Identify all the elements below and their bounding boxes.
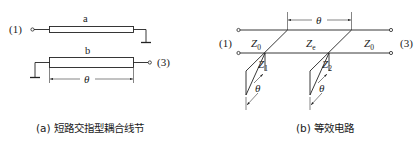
impedance-z2: Z2 <box>322 58 332 73</box>
line-b-label: b <box>85 45 90 56</box>
port-3-terminal-icon <box>148 61 151 64</box>
theta-length-label: θ <box>316 14 322 26</box>
port-1-bottom-terminal-icon <box>237 51 240 54</box>
diagram-canvas: (1) a b (3) θ (1) (3) θ <box>0 0 420 142</box>
port-1-label: (1) <box>9 23 22 36</box>
port-3-label: (3) <box>157 56 170 69</box>
port-3-label: (3) <box>400 37 413 50</box>
impedance-z1: Z1 <box>258 58 268 73</box>
figure-b-equivalent-circuit: (1) (3) θ Z0 Ze Z0 Z1 θ <box>219 12 413 110</box>
theta-length-label: θ <box>255 82 261 94</box>
theta-length-label: θ <box>319 82 325 94</box>
line-a-short-wire <box>134 30 147 43</box>
impedance-z0-left: Z0 <box>251 37 261 52</box>
coupled-line-a <box>50 27 134 33</box>
stub-1-dimension-arrow-bottom <box>247 93 258 105</box>
coupled-line-b <box>50 58 134 68</box>
port-1-label: (1) <box>219 37 232 50</box>
impedance-ze-middle: Ze <box>306 37 316 52</box>
theta-length-label: θ <box>84 73 90 85</box>
caption-a: (a) 短路交指型耦合线节 <box>36 122 144 134</box>
port-3-bottom-terminal-icon <box>389 51 392 54</box>
port-3-top-terminal-icon <box>389 28 392 31</box>
line-b-short-wire <box>35 63 50 78</box>
line-a-label: a <box>83 13 88 24</box>
port-1-terminal-icon <box>31 28 34 31</box>
figure-a-coupled-line-section: (1) a b (3) θ <box>9 13 170 85</box>
port-1-top-terminal-icon <box>237 28 240 31</box>
caption-b: (b) 等效电路 <box>296 122 355 134</box>
impedance-z0-right: Z0 <box>364 37 374 52</box>
shunt-stub-2: Z2 θ <box>310 30 352 110</box>
stub-2-dimension-arrow-bottom <box>311 93 322 105</box>
